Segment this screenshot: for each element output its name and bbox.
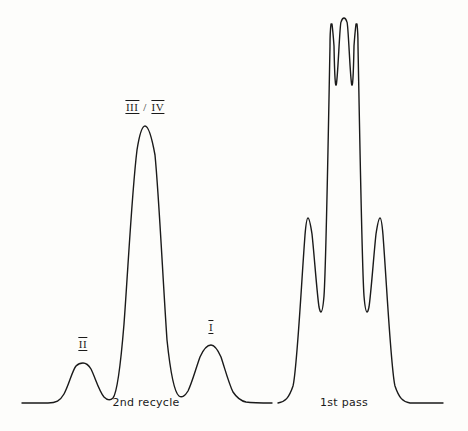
- peak-label-II: II: [78, 339, 87, 350]
- trace-2nd-recycle: [22, 126, 272, 403]
- peak-label-I: I: [208, 322, 213, 333]
- peak-label-III-text: III: [125, 100, 139, 114]
- section-label-2nd-recycle: 2nd recycle: [112, 396, 179, 409]
- chromatogram-trace: [0, 0, 468, 431]
- peak-label-III-IV: III / IV: [125, 102, 164, 113]
- peak-label-II-text: II: [78, 337, 87, 351]
- peak-label-IV-text: IV: [151, 100, 165, 114]
- chromatogram-figure: II III / IV I 2nd recycle 1st pass: [0, 0, 468, 431]
- peak-label-I-text: I: [208, 320, 213, 334]
- peak-label-separator: /: [139, 101, 151, 113]
- section-label-1st-pass: 1st pass: [320, 396, 368, 409]
- trace-1st-pass: [278, 18, 443, 403]
